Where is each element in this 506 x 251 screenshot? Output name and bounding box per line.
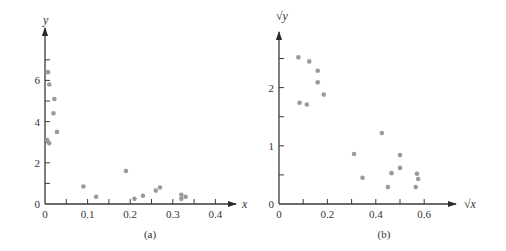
data-point xyxy=(315,80,320,85)
data-point xyxy=(153,188,158,193)
data-point xyxy=(398,153,403,158)
data-point xyxy=(51,111,56,116)
x-tick-label: 0.4 xyxy=(369,208,383,220)
x-tick-label: 0 xyxy=(276,208,282,220)
data-point xyxy=(47,82,52,87)
data-point xyxy=(158,185,163,190)
x-axis-label: x xyxy=(241,197,248,211)
data-point xyxy=(296,55,301,60)
data-point xyxy=(398,166,403,171)
data-point xyxy=(413,185,418,190)
data-point xyxy=(352,152,357,157)
data-point xyxy=(360,176,365,181)
scatter-panel-a: 00.10.20.30.40246xy(a) xyxy=(35,13,249,241)
panel-caption: (a) xyxy=(144,228,157,241)
y-tick-label: 0 xyxy=(35,198,41,210)
x-tick-label: 0.4 xyxy=(209,208,223,220)
data-point xyxy=(386,185,391,190)
data-point xyxy=(55,130,60,135)
panel-caption: (b) xyxy=(378,228,391,241)
data-point xyxy=(141,193,146,198)
data-point xyxy=(94,194,99,199)
y-tick-label: 1 xyxy=(269,140,275,152)
x-tick-label: 0.2 xyxy=(123,208,137,220)
data-point xyxy=(132,197,137,202)
data-point xyxy=(124,169,129,174)
data-point xyxy=(297,100,302,105)
y-tick-label: 6 xyxy=(35,74,41,86)
x-tick-label: 0.6 xyxy=(417,208,431,220)
data-point xyxy=(321,92,326,97)
data-point xyxy=(179,192,184,197)
data-point xyxy=(46,70,51,75)
y-axis-label: √y xyxy=(276,9,289,23)
x-axis-label: √x xyxy=(464,197,477,211)
x-tick-label: 0.1 xyxy=(81,208,95,220)
data-point xyxy=(416,177,421,182)
y-axis-label: y xyxy=(42,13,49,27)
data-point xyxy=(52,97,57,102)
y-tick-label: 2 xyxy=(269,82,275,94)
data-point xyxy=(183,194,188,199)
data-point xyxy=(81,184,86,189)
data-point xyxy=(47,141,52,146)
data-point xyxy=(389,171,394,176)
y-tick-label: 0 xyxy=(269,198,275,210)
x-tick-label: 0.3 xyxy=(166,208,180,220)
y-tick-label: 2 xyxy=(35,157,41,169)
data-point xyxy=(315,68,320,73)
x-tick-label: 0.2 xyxy=(321,208,335,220)
data-point xyxy=(179,197,184,202)
figure: 00.10.20.30.40246xy(a) 00.20.40.6012√x√y… xyxy=(0,0,506,251)
data-point xyxy=(380,131,385,136)
scatter-panel-b: 00.20.40.6012√x√y(b) xyxy=(269,9,477,241)
y-tick-label: 4 xyxy=(35,116,41,128)
data-point xyxy=(415,171,420,176)
x-tick-label: 0 xyxy=(42,208,48,220)
data-point xyxy=(307,59,312,64)
data-point xyxy=(305,102,310,107)
